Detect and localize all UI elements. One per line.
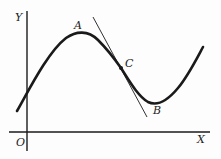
x-axis-label: X bbox=[196, 133, 206, 146]
curve bbox=[17, 33, 203, 111]
origin-label: O bbox=[16, 136, 25, 149]
point-c-marker bbox=[119, 66, 123, 70]
y-axis-label: Y bbox=[15, 11, 24, 24]
point-b-label: B bbox=[152, 104, 161, 117]
point-c-label: C bbox=[125, 57, 134, 70]
point-a-label: A bbox=[73, 19, 82, 32]
diagram-canvas: Y X O A C B bbox=[0, 0, 221, 159]
curve-diagram: Y X O A C B bbox=[0, 0, 221, 159]
